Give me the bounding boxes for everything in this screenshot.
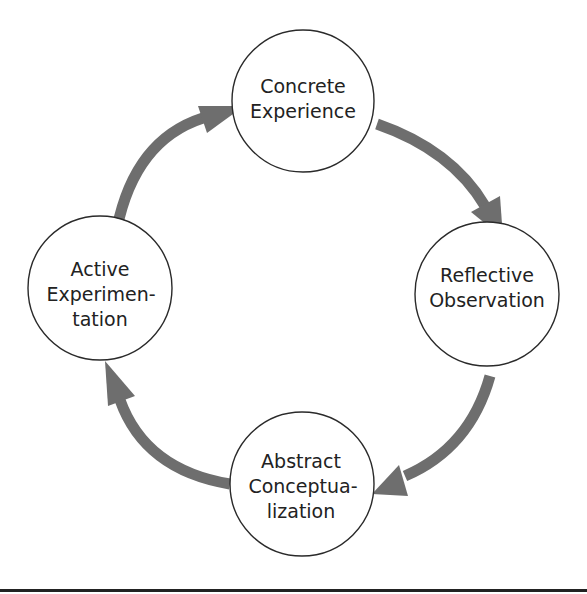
abstract-conceptualization-label-line-2: Conceptua- (248, 475, 357, 497)
node-abstract-conceptualization: Abstract Conceptua- lization (230, 412, 374, 556)
arrow-active-to-concrete (117, 106, 244, 228)
concrete-experience-label-line-2: Experience (250, 100, 356, 122)
reflective-observation-label-line-2: Observation (429, 289, 545, 311)
arrow-reflective-to-abstract (372, 376, 490, 496)
bottom-rule-divider (0, 589, 587, 592)
learning-cycle-diagram: Concrete Experience Reflective Observati… (0, 0, 587, 594)
active-experimentation-label-line-3: tation (72, 308, 128, 330)
active-experimentation-label-line-1: Active (71, 258, 130, 280)
abstract-conceptualization-label-line-3: lization (267, 500, 336, 522)
active-experimentation-label-line-2: Experimen- (46, 283, 155, 305)
arrow-concrete-to-reflective (377, 124, 503, 238)
reflective-observation-label-line-1: Reflective (440, 264, 534, 286)
arrow-abstract-to-active (105, 361, 230, 484)
concrete-experience-label-line-1: Concrete (260, 75, 346, 97)
abstract-conceptualization-label-line-1: Abstract (261, 450, 341, 472)
node-concrete-experience: Concrete Experience (232, 30, 374, 172)
node-active-experimentation: Active Experimen- tation (28, 216, 172, 360)
node-reflective-observation: Reflective Observation (415, 222, 559, 366)
